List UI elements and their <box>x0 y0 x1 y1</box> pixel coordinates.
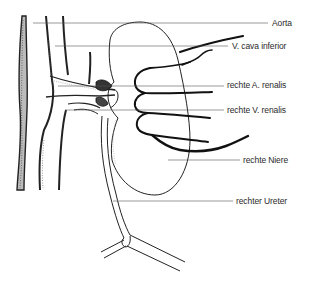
label-rechte-a-renalis: rechte A. renalis <box>227 81 286 90</box>
vena-cava-vessel <box>17 16 27 190</box>
label-rechte-v-renalis: rechte V. renalis <box>227 106 286 115</box>
label-rechte-niere: rechte Niere <box>243 156 288 165</box>
label-v-cava-inferior: V. cava inferior <box>232 42 286 51</box>
hand <box>135 36 248 151</box>
label-rechter-ureter: rechter Ureter <box>236 197 287 206</box>
aorta-vessel <box>40 16 68 190</box>
renal-vessels <box>46 52 115 114</box>
label-aorta: Aorta <box>272 19 292 28</box>
kidney <box>108 22 190 195</box>
